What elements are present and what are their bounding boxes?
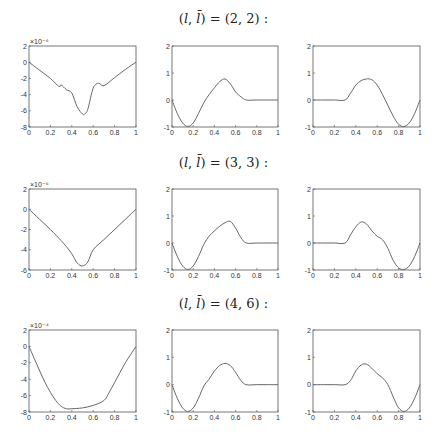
x-tick-label: 1 [418, 129, 422, 136]
x-tick-label: 0.4 [351, 414, 361, 421]
y-tick-label: 2 [166, 327, 170, 334]
y-tick-label: -2 [21, 359, 27, 366]
x-tick-label: 0.2 [46, 414, 56, 421]
axes-box [29, 189, 136, 270]
y-tick-label: 0 [23, 206, 27, 213]
y-tick-label: 2 [23, 327, 27, 334]
x-tick-label: 0 [27, 414, 31, 421]
data-curve [29, 209, 136, 266]
x-tick-label: 0.6 [88, 272, 98, 279]
y-tick-label: -1 [164, 267, 170, 274]
data-curve [172, 363, 278, 411]
x-tick-label: 0.6 [372, 129, 382, 136]
y-tick-label: -1 [305, 409, 311, 416]
x-tick-label: 0.8 [394, 414, 404, 421]
y-tick-label: -2 [21, 226, 27, 233]
x-tick-label: 0.8 [110, 129, 120, 136]
x-tick-label: 0.4 [210, 414, 220, 421]
axes-box [29, 46, 136, 127]
y-tick-label: 1 [166, 70, 170, 77]
x-tick-label: 1 [134, 272, 138, 279]
y-tick-label: 0 [307, 240, 311, 247]
x-tick-label: 0.2 [330, 129, 340, 136]
x-tick-label: 0.8 [394, 129, 404, 136]
y-tick-label: -1 [164, 409, 170, 416]
axes-box [313, 330, 420, 412]
data-curve [313, 79, 420, 127]
x-tick-label: 0.4 [351, 272, 361, 279]
x-tick-label: 0 [311, 414, 315, 421]
x-tick-label: 0 [27, 129, 31, 136]
y-tick-label: 2 [307, 327, 311, 334]
x-tick-label: 0.2 [330, 414, 340, 421]
x-tick-label: 0.8 [394, 272, 404, 279]
y-tick-label: 2 [166, 43, 170, 50]
x-tick-label: 1 [418, 414, 422, 421]
y-tick-label: -6 [21, 392, 27, 399]
y-tick-label: 0 [23, 343, 27, 350]
x-tick-label: 0.8 [252, 129, 262, 136]
y-tick-label: 0 [166, 240, 170, 247]
x-tick-label: 0.6 [372, 272, 382, 279]
x-tick-label: 1 [276, 272, 280, 279]
data-curve [172, 79, 278, 127]
data-curve [29, 62, 136, 115]
x-tick-label: 0 [170, 414, 174, 421]
x-tick-label: 0.4 [210, 272, 220, 279]
y-tick-label: 1 [166, 213, 170, 220]
y-tick-label: 0 [23, 59, 27, 66]
x-tick-label: 0.2 [188, 129, 198, 136]
y-tick-label: -6 [21, 107, 27, 114]
y-tick-label: -8 [21, 124, 27, 131]
x-tick-label: 0.4 [210, 129, 220, 136]
x-tick-label: 0 [27, 272, 31, 279]
x-tick-label: 1 [418, 272, 422, 279]
x-tick-label: 0.6 [231, 414, 241, 421]
x-tick-label: 0.2 [330, 272, 340, 279]
exponent-label: ×10⁻⁶ [30, 181, 49, 188]
x-tick-label: 0.8 [252, 272, 262, 279]
x-tick-label: 0.4 [67, 129, 77, 136]
x-tick-label: 0.4 [67, 414, 77, 421]
y-tick-label: -1 [164, 124, 170, 131]
y-tick-label: 1 [307, 354, 311, 361]
y-tick-label: -1 [305, 124, 311, 131]
y-tick-label: -4 [21, 91, 27, 98]
y-tick-label: 2 [307, 43, 311, 50]
x-tick-label: 0.6 [372, 414, 382, 421]
y-tick-label: 0 [166, 97, 170, 104]
data-curve [29, 346, 136, 409]
x-tick-label: 0 [311, 272, 315, 279]
x-tick-label: 0.2 [188, 414, 198, 421]
y-tick-label: 2 [23, 43, 27, 50]
x-tick-label: 1 [134, 414, 138, 421]
y-tick-label: 1 [307, 213, 311, 220]
x-tick-label: 0.8 [252, 414, 262, 421]
x-tick-label: 0.4 [67, 272, 77, 279]
y-tick-label: 0 [307, 381, 311, 388]
data-curve [172, 221, 278, 269]
x-tick-label: 0.2 [188, 272, 198, 279]
figure-canvas: 00.20.40.60.8120-2-4-6-8×10⁻⁶00.20.40.60… [0, 0, 447, 439]
y-tick-label: 1 [166, 354, 170, 361]
axes-box [29, 330, 136, 412]
axes-box [313, 189, 420, 270]
exponent-label: ×10⁻⁶ [30, 38, 49, 45]
y-tick-label: -2 [21, 75, 27, 82]
y-tick-label: -1 [305, 267, 311, 274]
y-tick-label: 2 [23, 186, 27, 193]
y-tick-label: 2 [166, 186, 170, 193]
x-tick-label: 0.6 [88, 129, 98, 136]
y-tick-label: -4 [21, 246, 27, 253]
y-tick-label: 2 [307, 186, 311, 193]
axes-box [172, 189, 278, 270]
x-tick-label: 1 [276, 414, 280, 421]
x-tick-label: 0.6 [88, 414, 98, 421]
x-tick-label: 0.8 [110, 272, 120, 279]
y-tick-label: 0 [307, 97, 311, 104]
data-curve [313, 364, 420, 412]
x-tick-label: 0 [170, 129, 174, 136]
y-tick-label: -8 [21, 409, 27, 416]
axes-box [313, 46, 420, 127]
x-tick-label: 0 [311, 129, 315, 136]
